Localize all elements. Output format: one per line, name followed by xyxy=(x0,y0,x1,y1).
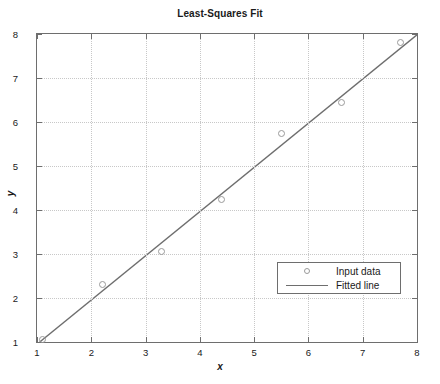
y-tick-mark xyxy=(37,122,42,123)
y-tick-mark xyxy=(412,342,417,343)
y-tick-label: 1 xyxy=(0,337,18,348)
x-tick-label: 1 xyxy=(24,347,50,358)
y-tick-mark xyxy=(412,254,417,255)
data-point-marker xyxy=(338,99,345,106)
circle-marker-icon xyxy=(278,264,336,278)
y-tick-label: 2 xyxy=(0,293,18,304)
y-tick-label: 6 xyxy=(0,117,18,128)
data-layer xyxy=(37,34,417,342)
x-tick-mark xyxy=(308,34,309,39)
data-point-marker xyxy=(39,336,46,343)
x-tick-mark xyxy=(363,34,364,39)
data-point-marker xyxy=(218,196,225,203)
x-tick-mark xyxy=(200,34,201,39)
x-tick-label: 5 xyxy=(241,347,267,358)
plot-area xyxy=(36,33,418,343)
data-point-marker xyxy=(278,130,285,137)
y-tick-mark xyxy=(37,78,42,79)
fitted-line xyxy=(40,35,417,342)
x-tick-mark xyxy=(200,337,201,342)
y-tick-mark xyxy=(37,298,42,299)
y-tick-label: 4 xyxy=(0,205,18,216)
x-tick-mark xyxy=(146,337,147,342)
x-tick-mark xyxy=(417,337,418,342)
x-tick-label: 6 xyxy=(295,347,321,358)
y-tick-label: 8 xyxy=(0,29,18,40)
data-point-marker xyxy=(99,281,106,288)
y-tick-label: 3 xyxy=(0,249,18,260)
x-tick-label: 3 xyxy=(133,347,159,358)
x-tick-label: 7 xyxy=(350,347,376,358)
x-tick-label: 4 xyxy=(187,347,213,358)
y-tick-mark xyxy=(412,210,417,211)
x-tick-mark xyxy=(91,34,92,39)
x-tick-mark xyxy=(37,34,38,39)
y-tick-mark xyxy=(37,210,42,211)
y-tick-label: 5 xyxy=(0,161,18,172)
y-axis-label: y xyxy=(5,191,16,197)
x-tick-label: 2 xyxy=(78,347,104,358)
legend-label: Input data xyxy=(336,266,380,277)
x-tick-mark xyxy=(363,337,364,342)
y-tick-mark xyxy=(412,78,417,79)
y-tick-mark xyxy=(412,122,417,123)
x-axis-label: x xyxy=(0,361,440,372)
chart-title: Least-Squares Fit xyxy=(0,8,440,19)
y-tick-mark xyxy=(412,298,417,299)
legend-entry-input-data[interactable]: Input data xyxy=(278,264,400,278)
x-tick-mark xyxy=(37,337,38,342)
x-tick-label: 8 xyxy=(404,347,430,358)
line-segment-icon xyxy=(278,278,336,292)
y-tick-mark xyxy=(37,254,42,255)
x-tick-mark xyxy=(308,337,309,342)
x-tick-mark xyxy=(254,337,255,342)
x-tick-mark xyxy=(254,34,255,39)
x-tick-mark xyxy=(417,34,418,39)
y-tick-label: 7 xyxy=(0,73,18,84)
legend-entry-fitted-line[interactable]: Fitted line xyxy=(278,278,400,292)
x-tick-mark xyxy=(91,337,92,342)
y-tick-mark xyxy=(37,166,42,167)
legend-box[interactable]: Input data Fitted line xyxy=(277,262,401,294)
figure-canvas: Least-Squares Fit 1234567812345678 y x I… xyxy=(0,0,440,384)
y-tick-mark xyxy=(412,166,417,167)
legend-label: Fitted line xyxy=(336,280,379,291)
x-tick-mark xyxy=(146,34,147,39)
